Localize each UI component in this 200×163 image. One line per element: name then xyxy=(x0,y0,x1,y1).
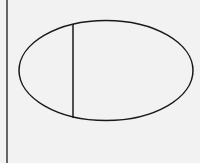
diagram-canvas xyxy=(0,0,200,163)
ellipse-shape xyxy=(19,21,193,121)
